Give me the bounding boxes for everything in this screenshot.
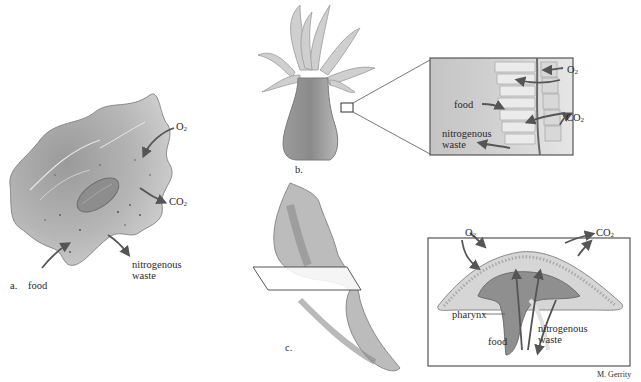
label-c-pharynx: pharynx xyxy=(452,309,486,320)
anemone-illustration xyxy=(258,5,430,160)
label-c-food: food xyxy=(488,336,507,347)
label-c-co2: CO2 xyxy=(596,227,614,241)
amoeba-illustration xyxy=(10,94,172,265)
artist-credit: M. Gerrity xyxy=(597,369,631,380)
label-b-co2: CO2 xyxy=(566,112,584,126)
label-c-o2: O2 xyxy=(465,227,476,241)
panel-a-letter: a. xyxy=(10,280,17,291)
label-b-nitrogenous-waste: nitrogenouswaste xyxy=(442,128,492,150)
panel-c-letter: c. xyxy=(285,342,292,353)
label-c-nitrogenous-waste: nitrogenouswaste xyxy=(538,323,588,345)
panel-b-letter: b. xyxy=(295,164,303,175)
label-a-o2: O2 xyxy=(176,121,187,135)
label-b-o2: O2 xyxy=(567,64,578,78)
planarian-illustration xyxy=(253,183,400,371)
label-a-nitrogenous-waste: nitrogenouswaste xyxy=(132,259,182,281)
zoom-region-marker xyxy=(341,103,353,112)
label-a-food: food xyxy=(28,280,47,291)
label-a-co2: CO2 xyxy=(169,196,187,210)
cross-section-plane xyxy=(253,267,361,290)
label-b-food: food xyxy=(454,99,473,110)
